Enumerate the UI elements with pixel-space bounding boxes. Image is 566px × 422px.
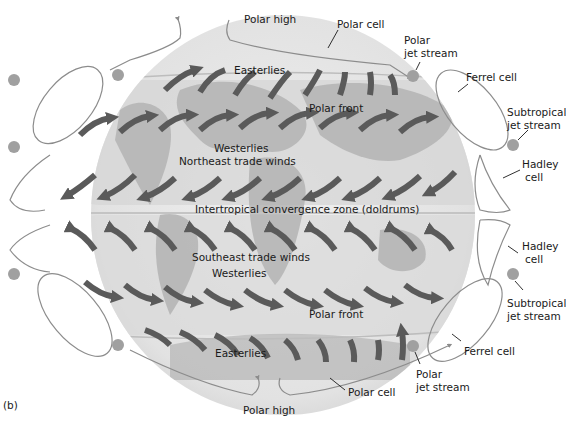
label-ferrel-cell-bottom: Ferrel cell (464, 345, 515, 358)
jet-dot (407, 340, 419, 352)
label-polar-front-top: Polar front (309, 102, 363, 115)
label-hadley-south-1: Hadley (522, 240, 559, 253)
label-ne-trade-winds: Northeast trade winds (179, 155, 296, 168)
jet-dot (8, 141, 20, 153)
jet-dot (112, 339, 124, 351)
label-polar-front-bottom: Polar front (309, 308, 363, 321)
label-hadley-north-2: cell (525, 171, 543, 184)
label-westerlies-south: Westerlies (212, 267, 266, 280)
ferrel-cell-left-north (20, 54, 116, 155)
label-ferrel-cell-top: Ferrel cell (466, 71, 517, 84)
label-subtropical-jet-top-2: jet stream (507, 119, 561, 132)
label-itcz: Intertropical convergence zone (doldrums… (195, 203, 419, 216)
atmospheric-circulation-diagram: Polar high Polar cell Polar jet stream E… (0, 0, 566, 422)
label-polar-cell-top: Polar cell (337, 18, 384, 31)
label-polar-high-top: Polar high (244, 13, 296, 26)
jet-dot (507, 268, 519, 280)
panel-label: (b) (3, 399, 18, 412)
hadley-cell-right-south (477, 220, 510, 285)
hadley-cell-left-south (10, 225, 50, 272)
label-subtropical-jet-bottom-2: jet stream (507, 310, 561, 323)
label-westerlies-north: Westerlies (214, 142, 268, 155)
label-hadley-south-2: cell (525, 253, 543, 266)
label-easterlies-top: Easterlies (234, 64, 285, 77)
label-hadley-north-1: Hadley (522, 158, 559, 171)
label-se-trade-winds: Southeast trade winds (192, 251, 310, 264)
label-subtropical-jet-bottom-1: Subtropical (507, 297, 566, 310)
label-polar-jet-top-2: jet stream (404, 47, 458, 60)
label-polar-jet-bottom-2: jet stream (416, 381, 470, 394)
label-polar-jet-bottom-1: Polar (416, 368, 442, 381)
label-polar-jet-top-1: Polar (404, 34, 430, 47)
hadley-cell-left-north (10, 155, 50, 211)
label-subtropical-jet-top-1: Subtropical (507, 106, 566, 119)
jet-dot (112, 69, 124, 81)
label-polar-cell-bottom: Polar cell (348, 386, 395, 399)
label-easterlies-bottom: Easterlies (215, 347, 266, 360)
jet-dot (8, 74, 20, 86)
jet-dot (8, 268, 20, 280)
hadley-cell-right-north (475, 155, 510, 213)
jet-dot (507, 139, 519, 151)
jet-dot (407, 70, 419, 82)
label-polar-high-bottom: Polar high (243, 404, 295, 417)
